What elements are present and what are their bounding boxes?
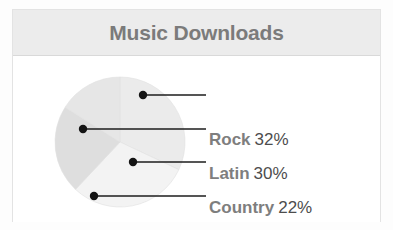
- pie-slice-label-category: Latin: [209, 164, 250, 183]
- pie-chart: [13, 56, 382, 222]
- leader-dot-country: [129, 158, 137, 166]
- pie-slice-label-country: Country22%: [209, 199, 312, 216]
- pie-slice-label-rock: Rock32%: [209, 131, 289, 148]
- pie-slice-label-latin: Latin30%: [209, 165, 288, 182]
- pie-slice-label-category: Rock: [209, 130, 251, 149]
- pie-slice-label-category: Country: [209, 198, 274, 217]
- chart-card-header: Music Downloads: [13, 10, 380, 56]
- chart-card: Music Downloads Rock32% Latin30% Country…: [12, 9, 381, 222]
- pie-slice-label-percent: 22%: [274, 198, 312, 217]
- leader-dot-latin: [79, 125, 87, 133]
- screenshot-root: Music Downloads Rock32% Latin30% Country…: [0, 0, 393, 230]
- pie-chart-svg: [13, 56, 382, 222]
- page-title: Music Downloads: [109, 21, 283, 45]
- pie-slice-label-percent: 30%: [250, 164, 288, 183]
- chart-card-body: Rock32% Latin30% Country22% Other16%: [13, 56, 380, 222]
- pie-slice-label-percent: 32%: [251, 130, 289, 149]
- leader-dot-other: [90, 192, 98, 200]
- leader-dot-rock: [139, 91, 147, 99]
